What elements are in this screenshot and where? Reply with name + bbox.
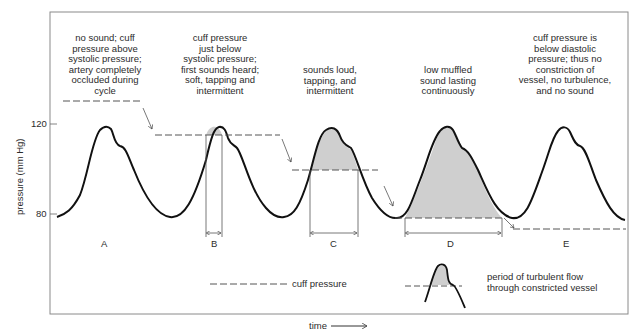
arrow-a-b — [143, 108, 152, 129]
phase-label-d: D — [447, 238, 454, 249]
phase-label-b: B — [211, 238, 217, 249]
arrow-c-d — [384, 186, 393, 206]
y-tick-120: 120 — [31, 118, 47, 129]
annotation-a: no sound; cuff pressure above systolic p… — [55, 33, 155, 97]
x-axis-label: time — [309, 320, 327, 331]
y-tick-80: 80 — [36, 208, 47, 219]
legend-pulse-icon — [405, 264, 465, 308]
annotation-d: low muffled sound lasting continuously — [406, 65, 490, 97]
annotation-c: sounds loud, tapping, and intermittent — [290, 65, 370, 97]
phase-label-e: E — [563, 238, 569, 249]
y-axis-label: pressure (mm Hg) — [14, 138, 25, 215]
annotation-e: cuff pressure is below diastolic pressur… — [504, 33, 626, 97]
annotation-b: cuff pressure just below systolic pressu… — [168, 33, 272, 97]
phase-label-c: C — [330, 238, 337, 249]
legend-turbulent-label: period of turbulent flow through constri… — [487, 272, 627, 293]
phase-label-a: A — [101, 238, 107, 249]
arrow-b-c — [282, 139, 291, 162]
legend-cuff-label: cuff pressure — [292, 278, 347, 289]
shade-d — [405, 128, 502, 219]
arrow-d-e — [504, 218, 514, 228]
